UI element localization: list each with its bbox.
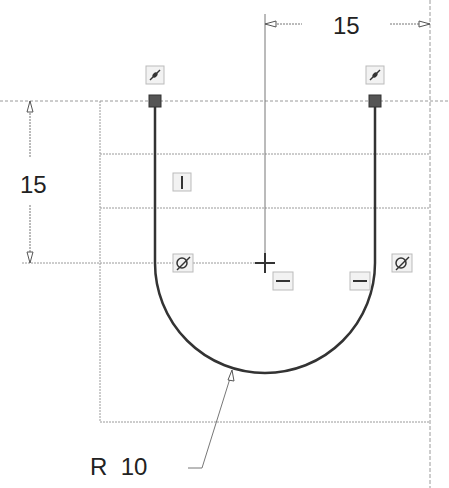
arc-center-point[interactable] [255, 253, 275, 273]
horizontal-dimension-label[interactable]: 15 [333, 14, 360, 38]
tangent-icon[interactable] [392, 254, 412, 272]
radius-leader[interactable] [188, 370, 234, 468]
radius-dimension-label[interactable]: R 10 [90, 455, 147, 479]
horizontal-icon[interactable] [350, 272, 370, 290]
right-endpoint[interactable] [369, 95, 381, 107]
coincident-icon[interactable] [146, 66, 164, 84]
vertical-dimension-label[interactable]: 15 [20, 173, 47, 197]
coincident-icon[interactable] [366, 66, 384, 84]
bottom-arc[interactable] [155, 263, 375, 373]
tangent-icon[interactable] [173, 254, 193, 272]
vertical-icon[interactable] [173, 173, 191, 191]
sketch-canvas[interactable] [0, 0, 449, 488]
horizontal-icon[interactable] [273, 272, 293, 290]
left-endpoint[interactable] [149, 95, 161, 107]
